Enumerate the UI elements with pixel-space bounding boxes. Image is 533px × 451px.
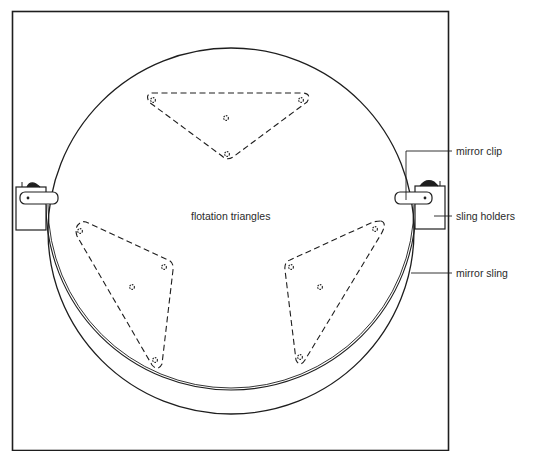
flotation-triangle-right xyxy=(285,221,384,364)
flotation-triangle-left xyxy=(76,222,173,369)
mirror-sling xyxy=(46,205,416,390)
mirror xyxy=(48,48,414,414)
mirror-sling-label: mirror sling xyxy=(456,267,508,279)
mirror-clip-left xyxy=(20,192,58,204)
mirror-cell-diagram xyxy=(0,0,533,451)
flotation-triangle-top xyxy=(148,93,309,159)
mirror-clip-label: mirror clip xyxy=(456,145,502,157)
sling-holder-left xyxy=(16,182,46,230)
sling-holders-label: sling holders xyxy=(456,210,515,222)
mirror-clip-right xyxy=(395,192,432,204)
flotation-triangles-label: flotation triangles xyxy=(191,210,270,222)
sling-holder-right xyxy=(415,181,445,229)
